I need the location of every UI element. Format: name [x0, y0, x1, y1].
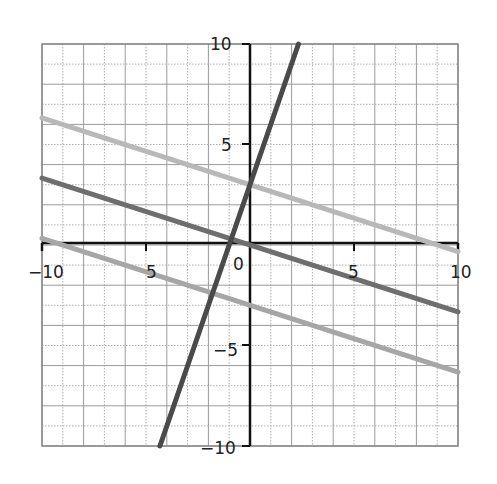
x-tick-label: 10: [450, 262, 472, 282]
y-tick-label: −10: [200, 438, 236, 458]
y-tick-label: 10: [210, 34, 232, 54]
x-tick-label: −10: [28, 262, 64, 282]
x-tick-label: 0: [233, 254, 244, 274]
x-tick-label: 5: [146, 262, 157, 282]
y-tick-label: −5: [213, 340, 238, 360]
coordinate-plane: −10 5 0 5 10 10 5 −5 −10: [0, 0, 497, 484]
x-tick-label: 5: [348, 262, 359, 282]
y-tick-label: 5: [221, 135, 232, 155]
